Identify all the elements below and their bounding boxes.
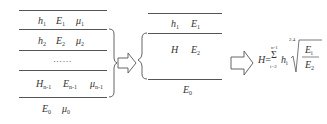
formula-root-index: 2.4 [289,35,295,45]
formula-denominator: E2 [305,60,314,73]
formula-sum-lower: i=2 [270,62,277,72]
right-arrow-icon-2 [231,51,253,75]
middle-brace-icon [138,33,147,79]
right-arrow-icon-1 [118,53,136,73]
connectors [0,0,327,124]
left-brace-icon [109,29,117,97]
formula-term: hi [281,55,288,68]
formula-sum-symbol: Σ [271,50,277,60]
formula-numerator: Ei [305,45,313,58]
formula-lhs: H= [258,55,271,65]
